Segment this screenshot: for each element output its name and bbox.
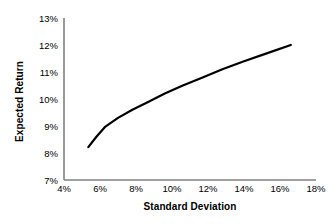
- plot-area: [0, 0, 336, 224]
- chart-container: Expected Return Standard Deviation 7%8%9…: [0, 0, 336, 224]
- efficient-frontier-line: [88, 45, 290, 147]
